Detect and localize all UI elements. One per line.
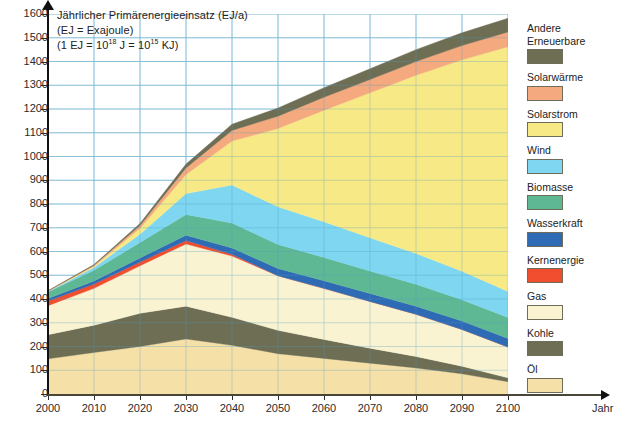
x-axis-tick-mark	[278, 396, 279, 400]
legend-item-label: Biomasse	[527, 181, 626, 194]
y-axis-ticks: 0100200300400500600700800900100011001200…	[0, 0, 48, 426]
y-axis-tick-mark	[41, 180, 47, 181]
x-axis-tick-mark	[370, 396, 371, 400]
x-axis-tick-label: 2060	[302, 403, 346, 414]
chart-subtitle-unit: (EJ = Exajoule)	[57, 23, 248, 38]
conversion-suffix: KJ)	[158, 39, 178, 51]
x-axis-tick-label: 2000	[26, 403, 70, 414]
x-axis-tick-mark	[324, 396, 325, 400]
legend-item[interactable]: Solarwärme	[527, 71, 626, 101]
x-axis-tick-mark	[232, 396, 233, 400]
legend-item[interactable]: Kohle	[527, 327, 626, 357]
legend-item-swatch	[527, 195, 563, 210]
y-axis-tick-mark	[41, 85, 47, 86]
x-axis-tick-label: 2050	[256, 403, 300, 414]
legend-item-label: Öl	[527, 363, 626, 376]
legend-item[interactable]: AndereErneuerbare	[527, 22, 626, 64]
x-axis-tick-label: 2020	[118, 403, 162, 414]
x-axis-tick-label: 2030	[164, 403, 208, 414]
y-axis-tick-mark	[41, 109, 47, 110]
y-axis-tick-mark	[41, 299, 47, 300]
legend-item-swatch	[527, 159, 563, 174]
legend-item-swatch	[527, 49, 563, 64]
y-axis-tick-mark	[41, 204, 47, 205]
y-axis-tick-mark	[41, 157, 47, 158]
y-axis-tick-mark	[41, 14, 47, 15]
legend-item-swatch	[527, 305, 563, 320]
x-axis-tick-mark	[48, 396, 49, 400]
legend-item-label: Solarwärme	[527, 71, 626, 84]
x-axis-tick-mark	[462, 396, 463, 400]
x-axis-tick-mark	[94, 396, 95, 400]
legend-item-swatch	[527, 86, 563, 101]
x-axis-tick-label: 2010	[72, 403, 116, 414]
x-axis-tick-label: 2040	[210, 403, 254, 414]
y-axis-tick-mark	[41, 394, 47, 395]
legend-item[interactable]: Solarstrom	[527, 108, 626, 138]
y-axis-tick-mark	[41, 133, 47, 134]
x-axis-tick-mark	[140, 396, 141, 400]
y-axis-tick-mark	[41, 252, 47, 253]
legend-item-label: Wind	[527, 144, 626, 157]
legend-item-swatch	[527, 378, 563, 393]
y-axis-tick-mark	[41, 347, 47, 348]
legend-item-label: Kohle	[527, 327, 626, 340]
x-axis-tick-mark	[186, 396, 187, 400]
y-axis-tick-mark	[41, 38, 47, 39]
legend-item[interactable]: Wind	[527, 144, 626, 174]
chart-title-block: Jährlicher Primärenergieeinsatz (EJ/a) (…	[57, 8, 248, 53]
chart-legend: AndereErneuerbareSolarwärmeSolarstromWin…	[527, 22, 626, 400]
x-axis-tick-label: 2090	[440, 403, 484, 414]
plot-area	[48, 14, 508, 394]
x-axis-tick-label: 2100	[486, 403, 530, 414]
legend-item[interactable]: Biomasse	[527, 181, 626, 211]
legend-item-swatch	[527, 341, 563, 356]
x-axis-line	[47, 394, 603, 396]
legend-item-label: Wasserkraft	[527, 217, 626, 230]
legend-item-label: Gas	[527, 290, 626, 303]
area-chart-svg	[48, 14, 508, 394]
legend-item-label: Kernenergie	[527, 254, 626, 267]
stacked-area-canvas	[48, 14, 508, 394]
x-axis-tick-mark	[508, 396, 509, 400]
y-axis-tick-mark	[41, 323, 47, 324]
legend-item-swatch	[527, 232, 563, 247]
legend-item-swatch	[527, 268, 563, 283]
conversion-prefix: (1 EJ = 10	[57, 39, 108, 51]
y-axis-tick-mark	[41, 370, 47, 371]
legend-item-swatch	[527, 122, 563, 137]
legend-item[interactable]: Wasserkraft	[527, 217, 626, 247]
x-axis-label: Jahr	[592, 403, 613, 414]
y-axis-tick-mark	[41, 275, 47, 276]
x-axis-tick-label: 2080	[394, 403, 438, 414]
legend-item[interactable]: Öl	[527, 363, 626, 393]
x-axis-tick-label: 2070	[348, 403, 392, 414]
legend-item[interactable]: Kernenergie	[527, 254, 626, 284]
chart-title: Jährlicher Primärenergieeinsatz (EJ/a)	[57, 8, 248, 23]
legend-item[interactable]: Gas	[527, 290, 626, 320]
chart-root: 0100200300400500600700800900100011001200…	[0, 0, 626, 426]
y-axis-tick-mark	[41, 62, 47, 63]
chart-subtitle-conversion: (1 EJ = 1018 J = 1015 KJ)	[57, 38, 248, 53]
x-axis-tick-mark	[416, 396, 417, 400]
legend-item-label: Solarstrom	[527, 108, 626, 121]
conversion-mid: J = 10	[116, 39, 150, 51]
y-axis-tick-mark	[41, 228, 47, 229]
legend-item-label: AndereErneuerbare	[527, 22, 626, 47]
